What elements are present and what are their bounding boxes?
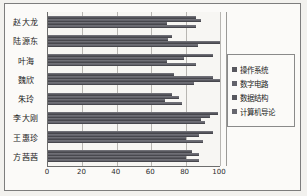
x-axis-tick-label: 100 xyxy=(212,168,225,176)
bar xyxy=(48,25,196,28)
chart-plot-wrapper: 赵大龙陆源东叶海魏欣朱玲李大刚王惠珍方茜茜 020406080100 操作系统数… xyxy=(5,4,300,190)
y-axis-label: 魏欣 xyxy=(7,70,45,89)
legend-swatch-icon xyxy=(232,95,237,100)
x-axis-tick-label: 60 xyxy=(146,168,155,176)
y-axis-label: 叶海 xyxy=(7,51,45,70)
bar-group xyxy=(48,89,220,108)
x-axis-tick-label: 0 xyxy=(45,168,49,176)
bar-group xyxy=(48,70,220,89)
legend-swatch-icon xyxy=(232,109,237,114)
legend-label: 数据结构 xyxy=(240,92,268,103)
legend-item[interactable]: 数字电路 xyxy=(232,78,290,89)
bar-group xyxy=(48,31,220,50)
x-axis-tick-labels: 020406080100 xyxy=(47,168,219,182)
chart-legend: 操作系统数字电路数据结构计算机导论 xyxy=(227,54,295,127)
chart-frame: 赵大龙陆源东叶海魏欣朱玲李大刚王惠珍方茜茜 020406080100 操作系统数… xyxy=(4,3,301,191)
legend-label: 计算机导论 xyxy=(240,106,275,117)
legend-label: 数字电路 xyxy=(240,78,268,89)
legend-item[interactable]: 数据结构 xyxy=(232,92,290,103)
bar xyxy=(48,159,199,162)
bar-group xyxy=(48,147,220,166)
bar-groups xyxy=(48,12,220,166)
y-axis-label: 李大刚 xyxy=(7,108,45,127)
bar-group xyxy=(48,128,220,147)
x-axis-tick-label: 40 xyxy=(111,168,120,176)
bar xyxy=(48,82,194,85)
x-axis-tick-label: 80 xyxy=(180,168,189,176)
legend-swatch-icon xyxy=(232,81,237,86)
legend-item[interactable]: 计算机导论 xyxy=(232,106,290,117)
legend-label: 操作系统 xyxy=(240,64,268,75)
bar-group xyxy=(48,108,220,127)
y-axis-label: 王惠珍 xyxy=(7,128,45,147)
bar xyxy=(48,102,182,105)
legend-swatch-icon xyxy=(232,67,237,72)
x-axis-tick-label: 20 xyxy=(77,168,86,176)
legend-item[interactable]: 操作系统 xyxy=(232,64,290,75)
y-axis-label: 赵大龙 xyxy=(7,12,45,31)
plot-area xyxy=(47,12,220,167)
bar xyxy=(48,44,198,47)
y-axis-category-labels: 赵大龙陆源东叶海魏欣朱玲李大刚王惠珍方茜茜 xyxy=(7,12,45,166)
bar xyxy=(48,140,203,143)
bar-group xyxy=(48,12,220,31)
y-axis-label: 方茜茜 xyxy=(7,147,45,166)
y-axis-label: 陆源东 xyxy=(7,31,45,50)
bar xyxy=(48,63,196,66)
y-axis-label: 朱玲 xyxy=(7,89,45,108)
gridline xyxy=(220,12,221,166)
bar xyxy=(48,121,205,124)
bar-group xyxy=(48,51,220,70)
